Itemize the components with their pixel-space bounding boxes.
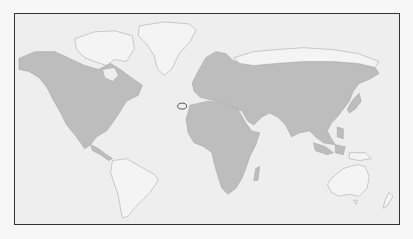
- canary-islands-marker: [178, 103, 187, 109]
- north-america-range: [19, 52, 142, 149]
- south-america: [111, 159, 159, 218]
- new-zealand: [383, 192, 393, 208]
- tasmania: [353, 200, 357, 204]
- map-frame: world distribution map Canary Islands: [14, 13, 400, 225]
- australia: [327, 165, 369, 197]
- madagascar-range: [254, 167, 260, 181]
- greenland: [138, 22, 196, 75]
- central-america-range: [91, 145, 113, 161]
- arctic-canada: [75, 31, 135, 66]
- world-map: [15, 14, 399, 224]
- new-guinea: [349, 153, 371, 161]
